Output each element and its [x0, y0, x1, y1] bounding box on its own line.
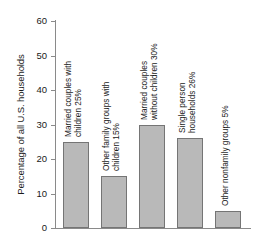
- y-tick-mark: [51, 90, 55, 91]
- y-tick-mark: [51, 125, 55, 126]
- bar-label-line: children 25%: [74, 27, 84, 137]
- bar-label-line: households 26%: [188, 33, 198, 133]
- bar-label-married-couples-without-children: Married couples without children 30%: [140, 10, 159, 120]
- bar-label-married-couples-with-children: Married couples with children 25%: [64, 27, 83, 137]
- bar-label-other-family-groups-with-children: Other family groups with children 15%: [102, 51, 121, 171]
- bar-married-couples-without-children: [139, 125, 165, 229]
- y-tick-label: 0: [14, 222, 47, 233]
- y-tick-mark: [51, 159, 55, 160]
- bar-label-other-nonfamily-groups: Other nonfamily groups 5%: [221, 96, 231, 206]
- bar-other-nonfamily-groups: [215, 211, 241, 228]
- bar-chart: Percentage of all U.S. households 60 50 …: [0, 0, 272, 249]
- bar-label-line: Other nonfamily groups 5%: [221, 96, 231, 206]
- bar-label-single-person-households: Single person households 26%: [178, 33, 197, 133]
- y-tick-mark: [51, 194, 55, 195]
- bar-married-couples-with-children: [63, 142, 89, 228]
- bar-other-family-groups-with-children: [101, 176, 127, 228]
- y-tick-label: 40: [14, 84, 47, 95]
- y-tick-label: 50: [14, 50, 47, 61]
- x-axis-line: [55, 228, 251, 229]
- bar-label-line: children 15%: [112, 51, 122, 171]
- bar-single-person-households: [177, 138, 203, 228]
- bar-label-line: without children 30%: [150, 10, 160, 120]
- y-tick-mark: [51, 228, 55, 229]
- y-tick-label: 30: [14, 119, 47, 130]
- y-tick-mark: [51, 21, 55, 22]
- y-axis-line: [55, 20, 56, 229]
- y-tick-mark: [51, 56, 55, 57]
- y-tick-label: 60: [14, 15, 47, 26]
- y-tick-label: 20: [14, 153, 47, 164]
- y-tick-label: 10: [14, 188, 47, 199]
